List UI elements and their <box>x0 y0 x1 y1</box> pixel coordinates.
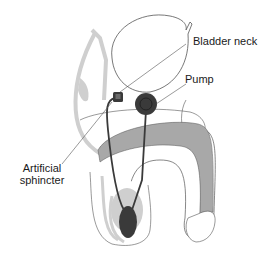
label-artificial-sphincter-line1: Artificial <box>18 162 66 174</box>
label-bladder-neck: Bladder neck <box>193 35 257 47</box>
label-artificial-sphincter: Artificial sphincter <box>18 162 66 186</box>
bladder-shape <box>112 15 192 92</box>
gland-shape <box>78 78 89 101</box>
reservoir-balloon <box>119 206 137 238</box>
label-artificial-sphincter-line2: sphincter <box>18 174 66 186</box>
label-pump: Pump <box>185 73 214 85</box>
sphincter-cuff-inner <box>116 94 121 99</box>
pump <box>135 93 157 115</box>
pelvic-structure <box>92 30 106 100</box>
